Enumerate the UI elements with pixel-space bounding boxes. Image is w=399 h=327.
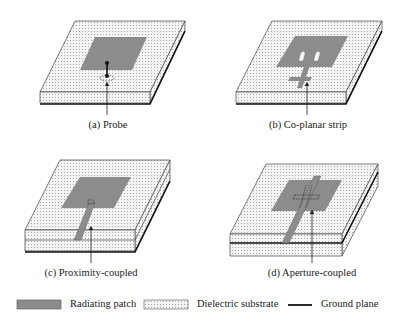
legend-label-patch: Radiating patch [70, 298, 136, 309]
legend-swatch-patch [17, 300, 61, 309]
legend-label-ground: Ground plane [321, 298, 378, 309]
panel-b-coplanar [236, 21, 382, 115]
panel-d-aperture [230, 164, 378, 263]
caption-panel-d: (d) Aperture-coupled [268, 267, 356, 278]
caption-panel-c: (c) Proximity-coupled [44, 267, 137, 278]
substrate-front [236, 92, 346, 103]
legend-swatch-substrate [144, 300, 188, 309]
caption-panel-a: (a) Probe [89, 119, 128, 130]
panel-a-probe [40, 21, 185, 115]
legend-label-substrate: Dielectric substrate [197, 298, 278, 309]
panel-c-proximity [25, 160, 170, 263]
caption-panel-b: (b) Co-planar strip [269, 119, 347, 130]
substrate-front [40, 92, 150, 103]
